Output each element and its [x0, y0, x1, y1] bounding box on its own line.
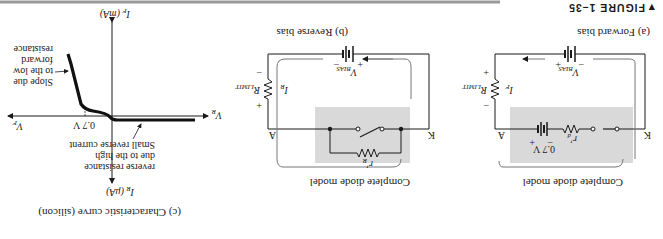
svg-text:Slope due: Slope due [13, 77, 53, 88]
rlimit-label: RLIMIT [462, 83, 488, 96]
rlimit-minus: − [483, 100, 489, 111]
iv-curve [68, 54, 195, 120]
svg-text:Small reverse current: Small reverse current [69, 140, 155, 151]
switch-contact-icon [591, 127, 595, 131]
switch-contact-icon [615, 127, 619, 131]
barrier-label: 0.7 V [532, 144, 555, 155]
panel-caption: (a) Forward bias [577, 26, 650, 39]
diode-model-box [315, 107, 410, 163]
rlimit-minus: − [256, 67, 262, 78]
svg-text:forward: forward [21, 55, 53, 66]
panel-caption: (b) Reverse bias [277, 26, 348, 39]
svg-text:to the low: to the low [12, 66, 53, 77]
panel-characteristic-curve: 0.7 V IF (mA) IR (μA) VF VR Slope due to… [8, 7, 222, 219]
panel-forward-bias: − + VBIAS − + RLIMIT IF r′d − + 0.7 V [462, 26, 651, 189]
model-label: Complete diode model [310, 177, 410, 189]
figure-canvas: ▼ FIGURE 1–35 − + VBIAS − + RLIMIT IF [0, 0, 663, 239]
axis-if-label: IF (mA) [99, 7, 131, 20]
axis-vr-label: VR [211, 108, 222, 121]
current-label: IF [505, 83, 514, 96]
annotation-arrow-icon [55, 71, 68, 72]
axis-ir-label: IR (μA) [105, 185, 135, 198]
vbias-label: VBIAS [336, 65, 357, 78]
figure-label: FIGURE 1–35 [568, 2, 645, 14]
current-label: IR [280, 83, 289, 96]
figure-marker: ▼ [646, 2, 657, 14]
svg-text:reverse resistance: reverse resistance [84, 162, 155, 173]
figure-header: ▼ FIGURE 1–35 [0, 2, 657, 14]
vbias-label: VBIAS [558, 65, 579, 78]
axis-vf-label: VF [12, 119, 23, 132]
switch-contact-icon [356, 127, 360, 131]
panel-reverse-bias: + − VBIAS + − RLIMIT IR r′R K A Complete… [235, 26, 435, 189]
model-label: Complete diode model [523, 177, 623, 189]
annotation-forward: Slope due to the low forward resistance [12, 44, 68, 88]
rlimit-label: RLIMIT [235, 83, 261, 96]
resistor-rlimit-icon [491, 79, 499, 99]
rlimit-plus: + [483, 67, 489, 78]
svg-text:resistance: resistance [13, 44, 53, 55]
node-a: A [268, 130, 276, 141]
node-a: A [497, 130, 505, 141]
switch-contact-icon [380, 127, 384, 131]
battery-vbias-icon [565, 46, 575, 62]
svg-text:due to the high: due to the high [95, 151, 155, 162]
vbias-plus: + [357, 59, 363, 70]
resistor-rlimit-icon [264, 79, 272, 99]
panel-caption: (c) Characteristic curve (silicon) [38, 206, 181, 219]
annotation-arrow-icon [133, 124, 141, 139]
knee-label: 0.7 V [72, 120, 95, 131]
figure-svg: ▼ FIGURE 1–35 − + VBIAS − + RLIMIT IF [0, 0, 663, 239]
rr-label: r′R [362, 157, 373, 170]
node-k: K [643, 130, 651, 141]
battery-vbias-icon [343, 46, 353, 62]
rlimit-plus: + [256, 100, 262, 111]
node-k: K [427, 130, 435, 141]
